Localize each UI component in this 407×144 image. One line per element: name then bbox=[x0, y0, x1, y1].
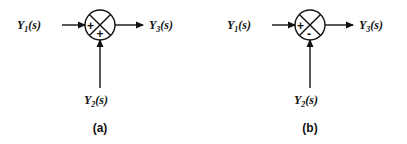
input-y2-label: Y2(s) bbox=[84, 93, 108, 109]
output-y3-label: Y3(s) bbox=[359, 18, 383, 34]
sign-left: + bbox=[297, 19, 304, 33]
diagram-b: Y1(s) + - Y3(s) Y2(s) (b) bbox=[227, 10, 383, 135]
caption-b: (b) bbox=[302, 121, 317, 135]
summing-junction-diagrams: Y1(s) + + Y3(s) Y2(s) (a) Y1(s) + bbox=[0, 0, 407, 144]
sign-bottom: - bbox=[307, 27, 311, 41]
input-y1-label: Y1(s) bbox=[17, 18, 41, 34]
output-y3-label: Y3(s) bbox=[149, 18, 173, 34]
caption-a: (a) bbox=[93, 121, 108, 135]
diagram-a: Y1(s) + + Y3(s) Y2(s) (a) bbox=[17, 10, 173, 135]
summing-junction: + - bbox=[295, 10, 325, 41]
sign-left: + bbox=[87, 19, 94, 33]
summing-junction: + + bbox=[85, 10, 115, 41]
input-y1-label: Y1(s) bbox=[227, 18, 251, 34]
input-y2-label: Y2(s) bbox=[294, 93, 318, 109]
sign-bottom: + bbox=[97, 27, 104, 41]
